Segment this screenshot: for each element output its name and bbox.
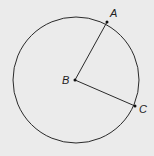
point-A <box>106 21 109 24</box>
segment-BA <box>75 22 107 80</box>
label-B: B <box>62 74 69 86</box>
segment-BC <box>75 80 135 106</box>
point-C <box>134 105 137 108</box>
label-C: C <box>139 103 147 115</box>
diagram-canvas: A B C <box>0 0 154 156</box>
circle-diagram: A B C <box>0 0 154 156</box>
point-B <box>74 79 77 82</box>
label-A: A <box>109 7 117 19</box>
